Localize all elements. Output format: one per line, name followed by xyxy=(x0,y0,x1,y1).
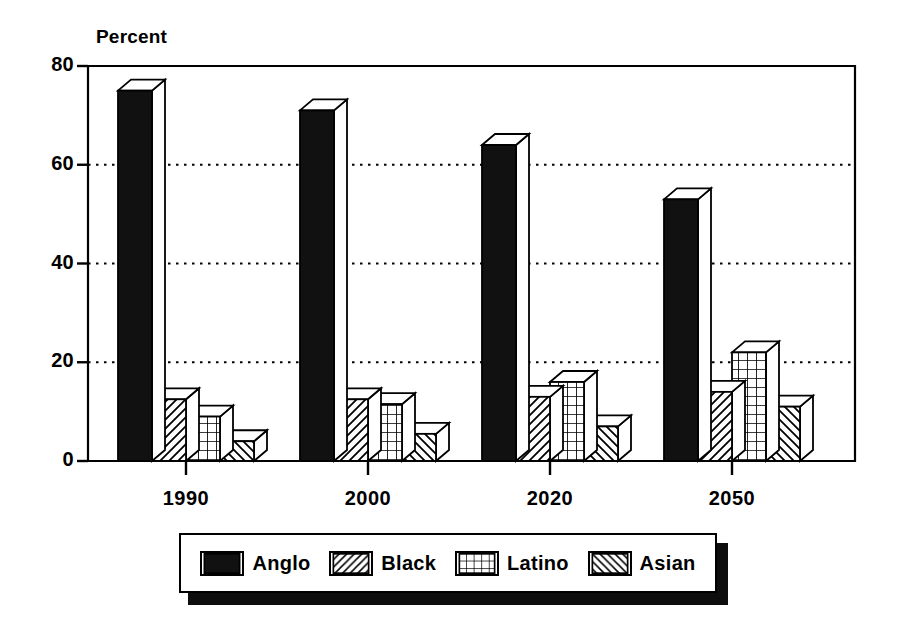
solid-fill-swatch xyxy=(200,551,244,576)
bar-2000-anglo xyxy=(300,99,347,461)
bar-side-face xyxy=(152,80,165,461)
chart-legend: AngloBlackLatinoAsian xyxy=(179,533,717,593)
bar-side-face xyxy=(368,388,381,461)
bar-side-face xyxy=(186,388,199,461)
legend-label: Latino xyxy=(507,552,569,575)
bar-side-face xyxy=(334,99,347,461)
bar-front-face xyxy=(300,110,334,461)
bar-side-face xyxy=(698,188,711,461)
bar-side-face xyxy=(516,134,529,461)
grid-lines xyxy=(88,165,855,363)
bar-front-face xyxy=(664,199,698,461)
chart-container: Percent 020406080 1990200020202050 xyxy=(0,0,898,642)
bar-2050-anglo xyxy=(664,188,711,461)
bar-front-face xyxy=(118,91,152,461)
bar-side-face xyxy=(550,386,563,461)
bars-layer xyxy=(118,80,813,461)
legend-item-black[interactable]: Black xyxy=(329,551,436,576)
legend-item-latino[interactable]: Latino xyxy=(455,551,569,576)
bar-side-face xyxy=(732,381,745,461)
legend-item-asian[interactable]: Asian xyxy=(588,551,696,576)
bar-1990-anglo xyxy=(118,80,165,461)
legend-item-anglo[interactable]: Anglo xyxy=(200,551,310,576)
legend-label: Black xyxy=(381,552,436,575)
bar-front-face xyxy=(482,145,516,461)
legend-label: Anglo xyxy=(252,552,310,575)
diagonal-hatch-swatch xyxy=(329,551,373,576)
legend-label: Asian xyxy=(640,552,696,575)
bar-2020-anglo xyxy=(482,134,529,461)
grid-hatch-swatch xyxy=(455,551,499,576)
bar-side-face xyxy=(766,341,779,461)
reverse-diagonal-hatch-swatch xyxy=(588,551,632,576)
bar-side-face xyxy=(584,371,597,461)
